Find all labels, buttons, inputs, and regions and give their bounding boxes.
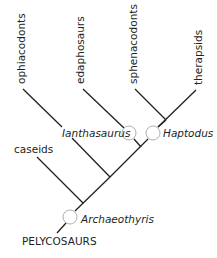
node-label-haptodus: Haptodus	[163, 127, 214, 139]
branch-root	[57, 223, 66, 233]
node-label-archaeothyris: Archaeothyris	[80, 213, 154, 225]
branch-ophiacodonts-lower	[72, 138, 110, 177]
branch-trunk-lower	[75, 177, 110, 211]
taxon-label-therapsids: therapsids	[192, 30, 204, 85]
branch-caseids	[37, 157, 83, 203]
taxon-label-edaphosaurs: edaphosaurs	[74, 16, 86, 84]
cladogram: ophiacodonts edaphosaurs sphenacodonts t…	[0, 0, 217, 258]
branch-sphen-therap-stem	[158, 120, 166, 127]
branch-sphenacodonts	[135, 89, 166, 120]
node-label-ianthasaurus: Ianthasaurus	[62, 127, 131, 139]
node-circle-archaeothyris	[63, 210, 77, 224]
branch-ophiacodonts	[23, 89, 62, 127]
node-circle-haptodus	[146, 126, 160, 140]
taxon-label-sphenacodonts: sphenacodonts	[127, 4, 139, 84]
taxon-label-caseids: caseids	[14, 143, 53, 155]
root-label-pelycosaurs: PELYCOSAURS	[22, 235, 97, 247]
branch-trunk-upper	[110, 139, 148, 177]
branch-edaphosaurs	[83, 89, 124, 128]
branch-edaphosaurs-lower	[134, 139, 141, 147]
taxon-label-ophiacodonts: ophiacodonts	[15, 13, 27, 84]
